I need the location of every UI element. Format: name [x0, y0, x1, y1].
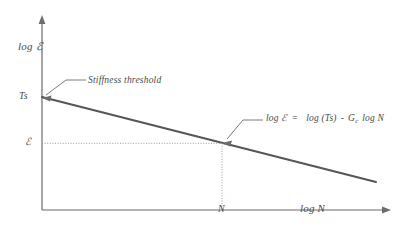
stiffness-threshold-figure: log ℰ log N Ts ℰ N Stiffness threshold l… [0, 0, 420, 242]
equation-minus: - [341, 113, 344, 123]
equation-rhs-first: log (Ts) [306, 113, 337, 123]
cycles-tick-label: N [218, 204, 225, 214]
equation-lhs: log ℰ [266, 113, 288, 123]
stiffness-threshold-leader [42, 80, 86, 102]
stiffness-threshold-tick-label: Ts [19, 91, 28, 101]
y-axis-title: log ℰ [18, 41, 43, 52]
equation-rhs-last: log N [362, 113, 384, 123]
equation-coefficient-subscript: c [355, 117, 358, 124]
equation-equals: = [292, 113, 299, 123]
x-axis-title: log N [300, 203, 325, 214]
projection-lines [42, 143, 222, 210]
degradation-line [42, 97, 376, 182]
equation-leader [222, 120, 263, 147]
equation-annotation: log ℰ=log (Ts)-Gclog N [266, 114, 384, 124]
strain-tick-label: ℰ [25, 137, 31, 147]
x-axis [42, 207, 391, 214]
stiffness-threshold-annotation: Stiffness threshold [88, 76, 161, 86]
